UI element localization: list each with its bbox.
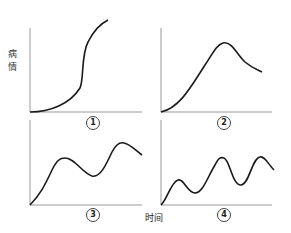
curve-panel-2 [161, 43, 262, 112]
curve-panel-4 [161, 157, 274, 205]
axes [30, 28, 272, 205]
panel-4-label: 4 [217, 208, 231, 222]
curve-panel-3 [30, 143, 142, 205]
diagram-canvas [0, 0, 291, 233]
panel-3-label: 3 [86, 208, 100, 222]
x-axis-label: 时间 [145, 211, 163, 224]
curve-panel-1 [30, 20, 108, 112]
panel-2-label: 2 [217, 116, 231, 130]
panel-1-label: 1 [86, 116, 100, 130]
